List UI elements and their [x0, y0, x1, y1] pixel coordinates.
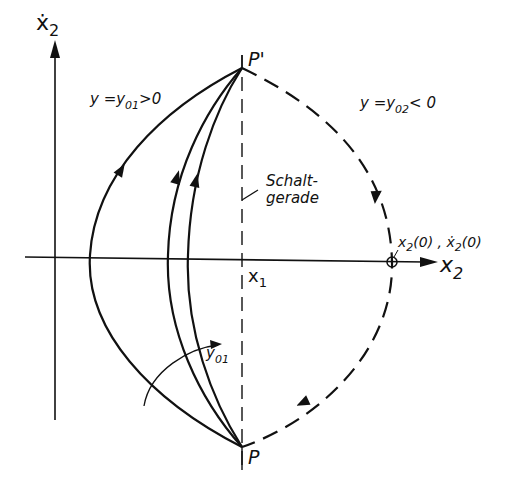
- arrow-down-icon: [295, 395, 310, 407]
- horizontal-axis-arrow-icon: [420, 257, 438, 267]
- trajectory-middle: [168, 68, 242, 447]
- point-p-label: P: [248, 446, 260, 468]
- trajectory-negative: [242, 68, 392, 447]
- region-left-label: y =y01>0: [89, 90, 161, 112]
- x1-label: x1: [248, 265, 267, 290]
- phase-plane-diagram: ẋ2 x2 P' P x1 x2(0) , ẋ2(0) y =y01>0 y =…: [0, 0, 519, 477]
- switching-line-label-2: gerade: [266, 189, 319, 207]
- region-right-label: y =y02< 0: [359, 94, 436, 116]
- trajectory-inner: [188, 68, 242, 447]
- trajectory-arrows: [114, 161, 203, 188]
- initial-condition-label: x2(0) , ẋ2(0): [397, 234, 482, 254]
- arrow-down-icon: [369, 189, 382, 204]
- parameter-label: y01: [205, 344, 229, 366]
- vertical-axis: [50, 40, 60, 420]
- arrow-up-icon: [190, 172, 203, 188]
- vertical-axis-label: ẋ2: [36, 10, 59, 40]
- horizontal-axis: [25, 257, 438, 267]
- vertical-axis-arrow-icon: [50, 40, 60, 58]
- horizontal-axis-label: x2: [439, 252, 463, 283]
- switching-line-label-1: Schalt-: [266, 172, 318, 190]
- point-p-prime-label: P': [248, 48, 265, 70]
- switching-line-leader: [242, 190, 258, 200]
